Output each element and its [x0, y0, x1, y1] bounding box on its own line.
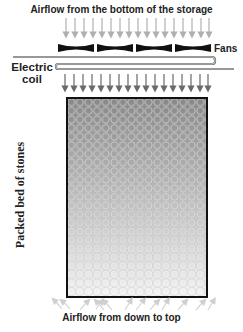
bottom-airflow-arrows [54, 300, 214, 310]
outlet-airflow-arrows [65, 74, 208, 89]
coil-label-line2: coil [8, 73, 56, 85]
packed-bed-label: Packed bed of stones [13, 142, 28, 248]
top-airflow-label: Airflow from the bottom of the storage [0, 4, 243, 15]
fan-icon [97, 44, 133, 52]
packed-bed [67, 98, 207, 297]
diagram-canvas [0, 0, 243, 332]
fan-icon [175, 44, 211, 52]
fan-icon [136, 44, 172, 52]
bottom-airflow-label: Airflow from down to top [0, 312, 243, 323]
fan-icon [58, 44, 94, 52]
coil-label-line1: Electric [8, 61, 56, 73]
inlet-airflow-arrows [66, 18, 209, 35]
fans [58, 44, 211, 52]
fans-label: Fans [214, 43, 237, 54]
electric-coil-label: Electric coil [8, 61, 56, 85]
